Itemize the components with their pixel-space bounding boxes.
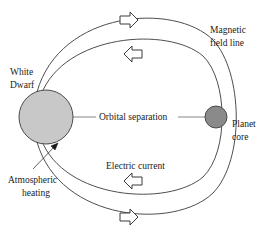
magnetic-field-line-label-line2: field line	[210, 38, 244, 48]
atmospheric-heating-label-line2: heating	[22, 188, 50, 198]
orbital-separation-label: Orbital separation	[99, 112, 168, 122]
white-dwarf-body	[19, 90, 73, 144]
flow-arrow-top-outer	[120, 12, 138, 28]
atmospheric-heating-leader	[33, 145, 56, 169]
planet-core-label-line1: Planet	[232, 119, 256, 129]
electric-current-label: Electric current	[106, 161, 165, 171]
flow-arrow-bottom-inner	[124, 173, 142, 189]
white-dwarf-label-line2: Dwarf	[10, 80, 35, 90]
atmospheric-heating-label-line1: Atmospheric	[8, 175, 57, 185]
magnetic-interaction-diagram: White Dwarf Planet core Magnetic field l…	[0, 0, 268, 234]
planet-core-body	[205, 106, 227, 128]
flow-arrow-top-inner	[124, 46, 142, 62]
figure-canvas: White Dwarf Planet core Magnetic field l…	[0, 0, 268, 234]
white-dwarf-label-line1: White	[10, 67, 33, 77]
planet-core-label-line2: core	[232, 132, 248, 142]
magnetic-field-line-label-line1: Magnetic	[210, 25, 246, 35]
flow-arrow-bottom-outer	[120, 209, 138, 225]
